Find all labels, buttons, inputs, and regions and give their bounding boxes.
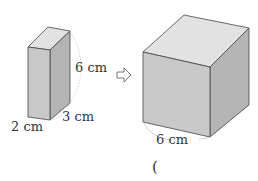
- cube-edge-label: 6 cm: [156, 133, 188, 146]
- cube-shape: [143, 15, 249, 137]
- cuboid-depth-label: 3 cm: [62, 110, 94, 123]
- cuboid-shape: [28, 27, 70, 120]
- cube-front-face: [143, 52, 210, 137]
- cuboid-height-label: 6 cm: [75, 61, 107, 74]
- answer-blank-paren: (: [152, 160, 158, 175]
- transform-arrow-icon: [117, 68, 131, 82]
- solids-diagram: [0, 0, 258, 181]
- figure-container: 6 cm 2 cm 3 cm 6 cm (: [0, 0, 258, 181]
- cuboid-width-label: 2 cm: [11, 120, 43, 133]
- cuboid-front-face: [28, 47, 50, 120]
